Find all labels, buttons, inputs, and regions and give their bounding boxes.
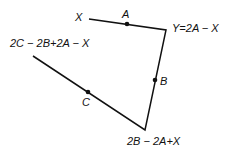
label-c: C (82, 97, 90, 108)
reflection-diagram: X A Y=2A − X 2C − 2B+2A − X B C 2B − 2A+… (0, 0, 231, 157)
label-top-left: 2C − 2B+2A − X (10, 38, 89, 49)
label-y: Y=2A − X (172, 23, 219, 34)
point-b-dot (153, 78, 158, 83)
label-b: B (160, 76, 167, 87)
point-c-dot (86, 90, 91, 95)
label-a: A (122, 9, 129, 20)
label-x: X (75, 12, 82, 23)
label-bottom: 2B − 2A+X (127, 136, 180, 147)
path-line (33, 19, 166, 130)
point-a-dot (125, 22, 130, 27)
